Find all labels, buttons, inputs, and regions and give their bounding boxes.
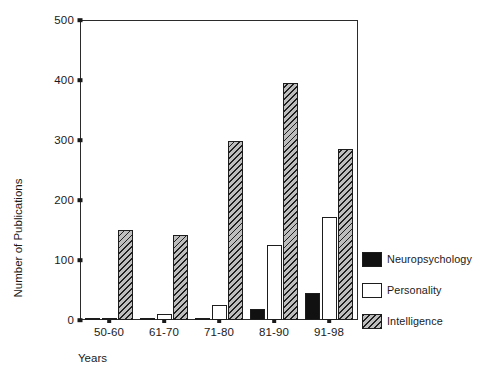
bar-81-90-neuropsychology bbox=[250, 309, 265, 320]
x-tick-label: 71-80 bbox=[204, 326, 234, 338]
legend-item-personality: Personality bbox=[362, 281, 478, 299]
legend-item-intelligence: Intelligence bbox=[362, 312, 478, 330]
y-tick-label: 200 bbox=[54, 194, 74, 206]
bar-50-60-personality bbox=[102, 318, 117, 320]
y-axis-title: Number of Publications bbox=[12, 158, 24, 318]
y-tick-label: 300 bbox=[54, 134, 74, 146]
x-tick-label: 81-90 bbox=[259, 326, 289, 338]
bar-61-70-intelligence bbox=[173, 235, 188, 320]
bar-61-70-neuropsychology bbox=[140, 318, 155, 320]
x-tick-label: 91-98 bbox=[314, 326, 344, 338]
y-axis-tick-labels: 0100200300400500 bbox=[36, 0, 74, 340]
bar-61-70-personality bbox=[157, 314, 172, 320]
bar-71-80-intelligence bbox=[228, 141, 243, 320]
bar-91-98-neuropsychology bbox=[305, 293, 320, 320]
legend-label-intelligence: Intelligence bbox=[387, 315, 443, 327]
bar-81-90-intelligence bbox=[283, 83, 298, 320]
bar-71-80-personality bbox=[212, 305, 227, 320]
x-axis-title: Years bbox=[78, 352, 107, 364]
publications-bar-chart: 0100200300400500 50-6061-7071-8081-9091-… bbox=[0, 0, 478, 392]
x-tick-label: 50-60 bbox=[94, 326, 124, 338]
legend-swatch-personality bbox=[362, 283, 382, 298]
bar-50-60-intelligence bbox=[118, 230, 133, 320]
bar-91-98-personality bbox=[322, 217, 337, 320]
legend-swatch-intelligence bbox=[362, 314, 382, 329]
bar-91-98-intelligence bbox=[338, 149, 353, 320]
x-tick-label: 61-70 bbox=[149, 326, 179, 338]
y-tick-label: 400 bbox=[54, 74, 74, 86]
chart-legend: Neuropsychology Personality Intelligence bbox=[362, 250, 478, 343]
y-tick-label: 500 bbox=[54, 14, 74, 26]
y-tick-label: 100 bbox=[54, 254, 74, 266]
legend-label-neuropsychology: Neuropsychology bbox=[387, 253, 472, 265]
bar-50-60-neuropsychology bbox=[85, 318, 100, 320]
legend-item-neuropsychology: Neuropsychology bbox=[362, 250, 478, 268]
bar-group-layer bbox=[82, 20, 357, 320]
legend-swatch-neuropsychology bbox=[362, 252, 382, 267]
legend-label-personality: Personality bbox=[387, 284, 442, 296]
y-tick-label: 0 bbox=[67, 314, 74, 326]
bar-71-80-neuropsychology bbox=[195, 318, 210, 320]
bar-81-90-personality bbox=[267, 245, 282, 320]
